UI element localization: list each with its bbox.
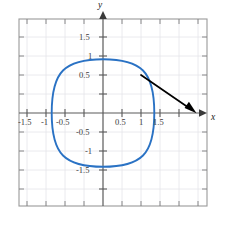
- y-tick-label-neg-1-5: -1.5: [76, 166, 89, 175]
- y-tick-label-pos-0-5: 0.5: [79, 71, 90, 80]
- y-axis-arrowhead: [99, 11, 107, 19]
- plot-canvas: [0, 0, 226, 225]
- x-tick-label-pos-0-5: 0.5: [115, 118, 126, 127]
- y-tick-label-neg-1: -1: [85, 147, 92, 156]
- x-tick-label-neg-0-5: -0.5: [56, 118, 69, 127]
- graph-figure: x y -1.5 -1 -0.5 0.5 1 1.5 1.5 1 0.5 -0.…: [0, 0, 226, 225]
- x-tick-label-neg-1: -1: [41, 118, 48, 127]
- x-tick-label-pos-1: 1: [139, 118, 143, 127]
- x-tick-label-neg-1-5: -1.5: [18, 118, 31, 127]
- x-axis-arrowhead: [199, 109, 207, 117]
- x-axis-label: x: [211, 113, 215, 123]
- y-tick-label-pos-1-5: 1.5: [79, 33, 90, 42]
- y-tick-label-pos-1: 1: [88, 52, 92, 61]
- x-tick-label-pos-1-5: 1.5: [153, 118, 164, 127]
- y-tick-label-neg-0-5: -0.5: [76, 128, 89, 137]
- y-axis-label: y: [98, 1, 102, 11]
